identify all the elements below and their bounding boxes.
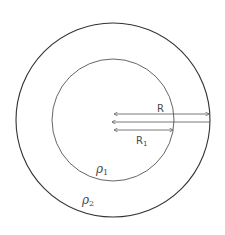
inner-radius-label: R1 [136,135,147,148]
concentric-circles-diagram: R R1 ρ1 ρ2 [0,0,225,235]
outer-density-label: ρ2 [81,193,94,208]
inner-density-label: ρ1 [95,162,108,177]
outer-radius-label: R [157,103,164,114]
inner-circle [52,59,174,181]
outer-circle [16,23,210,217]
